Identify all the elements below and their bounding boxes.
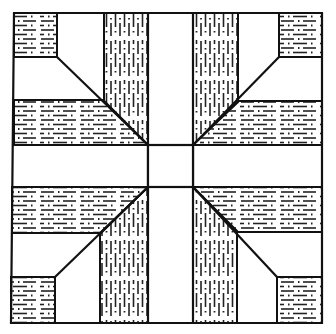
corner-square-top-left [14,13,57,57]
quilt-block-diagram [0,0,336,334]
corner-square-top-right [279,13,322,57]
corner-square-bottom-left [11,277,55,323]
center-square [148,145,193,187]
corner-square-bottom-right [277,277,322,323]
